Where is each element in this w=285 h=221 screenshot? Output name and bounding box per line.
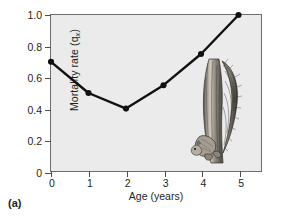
x-tick-label: 5 xyxy=(231,177,251,189)
y-tick-label: 0.4 xyxy=(27,104,42,116)
data-point-marker xyxy=(235,12,241,18)
mortality-rate-series xyxy=(51,15,261,171)
x-tick-label: 3 xyxy=(156,177,176,189)
x-tick-label: 0 xyxy=(42,177,62,189)
y-tick-label: 1.0 xyxy=(27,9,42,21)
x-tick-label: 4 xyxy=(193,177,213,189)
x-tick: 0 xyxy=(51,171,52,177)
series-line xyxy=(51,15,239,109)
y-tick-label: 0.8 xyxy=(27,41,42,53)
x-tick-label: 1 xyxy=(80,177,100,189)
y-tick-label: 0.6 xyxy=(27,72,42,84)
x-tick: 1 xyxy=(89,171,90,177)
y-tick-label: 0.2 xyxy=(27,135,42,147)
x-tick: 4 xyxy=(202,171,203,177)
plot-area: Mortality rate (qx) 00.20.40.60.81.0 012… xyxy=(50,14,262,172)
x-tick: 2 xyxy=(127,171,128,177)
panel-caption: (a) xyxy=(8,197,21,209)
data-point-marker xyxy=(123,106,129,112)
x-tick-label: 2 xyxy=(118,177,138,189)
x-tick: 5 xyxy=(240,171,241,177)
x-tick: 3 xyxy=(165,171,166,177)
data-point-marker xyxy=(85,90,91,96)
data-point-marker xyxy=(48,59,54,65)
x-axis-label: Age (years) xyxy=(50,190,262,202)
data-point-marker xyxy=(160,82,166,88)
figure-panel-a: Mortality rate (qx) 00.20.40.60.81.0 012… xyxy=(0,0,285,221)
data-point-marker xyxy=(198,51,204,57)
